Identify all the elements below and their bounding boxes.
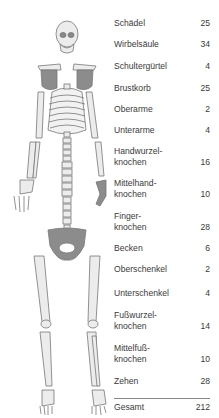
total-value: 212 [196, 402, 210, 412]
row-label: Finger- knochen [114, 211, 147, 233]
table-row: Brustkorb 25 [114, 83, 210, 94]
row-value: 25 [200, 83, 210, 94]
row-label: Schultergürtel [114, 61, 167, 72]
row-label: Becken [114, 243, 143, 254]
pelvis-icon [48, 228, 86, 260]
foot-icon [40, 390, 106, 415]
table-row: Mittelhand- knochen 10 [114, 178, 210, 200]
total-divider [114, 398, 210, 399]
row-label: Handwurzel- knochen [114, 146, 162, 168]
table-row: Mittelfuß- knochen 10 [114, 343, 210, 365]
row-label: Unterschenkel [114, 288, 169, 299]
total-label: Gesamt [114, 402, 144, 412]
row-label: Schädel [114, 18, 145, 29]
lower-leg-icon [40, 332, 100, 386]
table-row: Fußwurzel- knochen 14 [114, 310, 210, 332]
skull-icon [56, 21, 78, 53]
row-value: 4 [205, 288, 210, 299]
femur-icon [34, 256, 100, 328]
table-row: Wirbelsäule 34 [114, 39, 210, 50]
skeleton-illustration [0, 0, 112, 418]
table-row: Handwurzel- knochen 16 [114, 146, 210, 168]
row-label: Oberschenkel [114, 264, 167, 275]
table-row: Oberarme 2 [114, 104, 210, 115]
row-label: Mittelhand- knochen [114, 178, 157, 200]
total-row: Gesamt 212 [114, 402, 210, 413]
row-label: Fußwurzel- knochen [114, 310, 157, 332]
row-label: Mittelfuß- knochen [114, 343, 150, 365]
row-value: 2 [205, 264, 210, 275]
table-row: Zehen 28 [114, 376, 210, 387]
row-value: 34 [200, 39, 210, 50]
row-value: 4 [205, 61, 210, 72]
row-value: 14 [200, 321, 210, 332]
row-value: 2 [205, 104, 210, 115]
table-row: Becken 6 [114, 243, 210, 254]
row-label: Oberarme [114, 104, 153, 115]
table-row: Schädel 25 [114, 18, 210, 29]
row-value: 16 [200, 157, 210, 168]
table-row: Oberschenkel 2 [114, 264, 210, 275]
table-row: Finger- knochen 28 [114, 211, 210, 233]
row-value: 28 [200, 222, 210, 233]
table-row: Unterarme 4 [114, 125, 210, 136]
hand-icon [14, 180, 106, 212]
table-row: Unterschenkel 4 [114, 288, 210, 299]
row-value: 25 [200, 18, 210, 29]
row-value: 28 [200, 376, 210, 387]
row-value: 10 [200, 189, 210, 200]
row-value: 4 [205, 125, 210, 136]
row-value: 6 [205, 243, 210, 254]
row-label: Zehen [114, 376, 138, 387]
row-label: Unterarme [114, 125, 155, 136]
row-label: Wirbelsäule [114, 39, 159, 50]
ribcage-icon [48, 88, 86, 134]
table-row: Schultergürtel 4 [114, 61, 210, 72]
row-value: 10 [200, 354, 210, 365]
row-label: Brustkorb [114, 83, 151, 94]
